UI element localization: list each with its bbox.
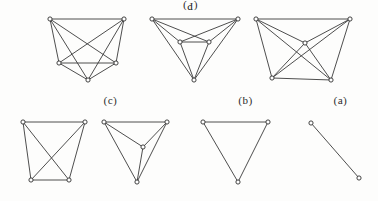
graph-vertex (357, 176, 361, 180)
graph-edge (152, 19, 194, 80)
graph-vertex (178, 40, 182, 44)
graph-edge (256, 19, 331, 80)
graph-k5-planarish (150, 17, 240, 82)
graph-edge (59, 63, 88, 80)
graph-vertex (67, 178, 71, 182)
graph-vertex (48, 17, 52, 21)
graph-k4-planar (102, 120, 169, 184)
graph-edge (59, 19, 124, 63)
caption-panel-d: (P) (160, 1, 220, 13)
graph-edge (331, 19, 350, 80)
graph-vertex (122, 17, 126, 21)
graph-k5-trapezoid (48, 17, 126, 82)
graph-vertex (135, 180, 139, 184)
graph-vertex (201, 120, 205, 124)
graph-vertex (309, 121, 313, 125)
graph-k4-trapezoid (21, 120, 87, 182)
graph-k3-triangle (201, 120, 270, 184)
graph-k5-centered (254, 17, 352, 82)
graph-vertex (102, 120, 106, 124)
caption-panel-b: (q) (215, 97, 275, 109)
graph-vertex (254, 17, 258, 21)
graph-edge (272, 19, 350, 78)
graph-edge (203, 122, 238, 182)
graph-edge (137, 122, 167, 182)
graph-edge (272, 43, 305, 78)
graph-vertex (270, 76, 274, 80)
graph-edge (50, 19, 88, 80)
graph-vertex (114, 61, 118, 65)
graph-vertex (207, 40, 211, 44)
figure-root: (P) (ɔ) (q) (ɐ) (0, 0, 378, 201)
graph-vertex (150, 17, 154, 21)
graph-edge (104, 122, 143, 147)
graph-k2-edge (309, 121, 361, 180)
graph-edge (143, 122, 167, 147)
graph-vertex (303, 41, 307, 45)
graph-vertex (21, 120, 25, 124)
graph-vertex (29, 178, 33, 182)
caption-panel-a: (ɐ) (310, 97, 370, 109)
graph-edge (152, 19, 209, 42)
graph-vertex (86, 78, 90, 82)
graph-vertex (192, 78, 196, 82)
graph-edge (88, 63, 116, 80)
graph-edge (194, 42, 209, 80)
graph-edge (180, 42, 194, 80)
graph-vertex (348, 17, 352, 21)
graph-vertex (57, 61, 61, 65)
graph-vertex (83, 120, 87, 124)
graph-edge (272, 78, 331, 80)
graph-edge (50, 19, 116, 63)
graph-edge (104, 122, 137, 182)
graph-edge (256, 19, 272, 78)
graph-vertex (266, 120, 270, 124)
graph-vertex (236, 180, 240, 184)
graph-vertex (236, 17, 240, 21)
graph-edge (238, 122, 268, 182)
caption-panel-c: (ɔ) (80, 97, 140, 109)
graph-edge (311, 123, 359, 178)
graph-vertex (165, 120, 169, 124)
graph-vertex (329, 78, 333, 82)
graph-vertex (141, 145, 145, 149)
